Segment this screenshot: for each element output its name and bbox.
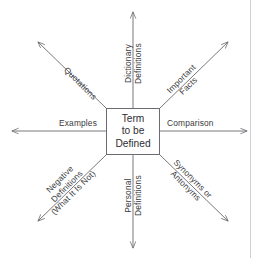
label-examples: Examples xyxy=(59,119,97,129)
label-dictionary-definitions: Dictionary Definitions xyxy=(124,41,143,87)
center-line-2: to be xyxy=(122,125,145,137)
label-personal-definitions-line-2: Definitions xyxy=(134,173,144,219)
label-personal-definitions: Personal Definitions xyxy=(124,173,143,219)
center-term-box: Term to be Defined xyxy=(106,108,160,155)
center-line-1: Term xyxy=(122,113,145,125)
label-dictionary-definitions-line-2: Definitions xyxy=(134,41,144,87)
center-line-3: Defined xyxy=(115,138,150,150)
diagram-canvas: Term to be Defined Dictionary Definition… xyxy=(0,0,259,258)
label-comparison: Comparison xyxy=(167,119,214,129)
